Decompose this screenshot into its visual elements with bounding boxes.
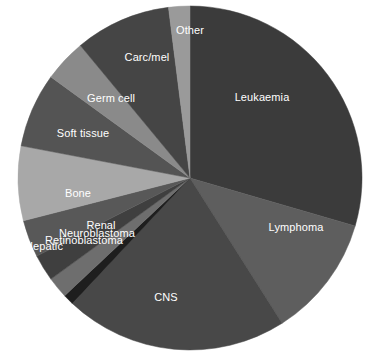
pie-chart-canvas	[0, 0, 377, 358]
pie-chart: LeukaemiaLymphomaCNSHepaticRetinoblastom…	[0, 0, 377, 358]
pie-slice-group	[18, 6, 362, 350]
